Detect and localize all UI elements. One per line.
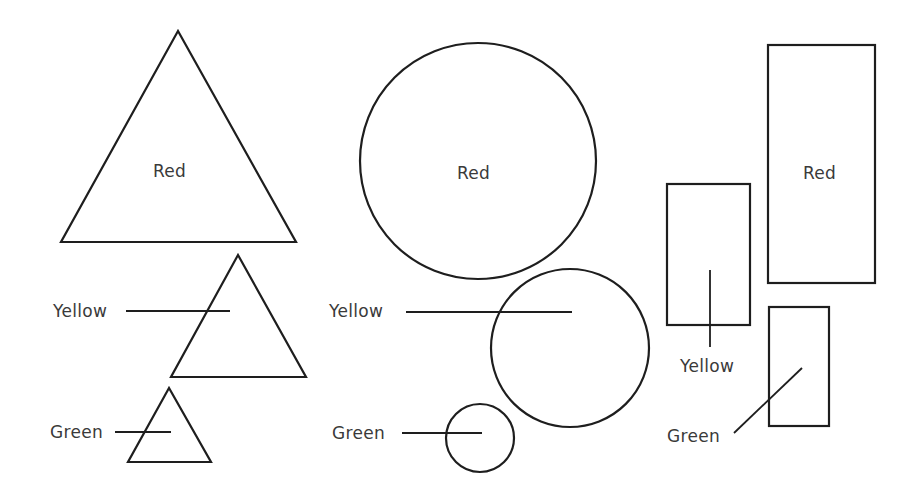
yellow-triangle	[171, 255, 306, 377]
red-triangle	[61, 31, 296, 242]
yellow-rectangle-label: Yellow	[680, 358, 734, 375]
green-triangle-label: Green	[50, 424, 103, 441]
green-circle-label: Green	[332, 425, 385, 442]
green-triangle	[128, 388, 211, 462]
green-rectangle-label: Green	[667, 428, 720, 445]
red-triangle-label: Red	[153, 163, 186, 180]
red-rectangle-label: Red	[803, 165, 836, 182]
yellow-circle	[491, 269, 649, 427]
yellow-triangle-label: Yellow	[53, 303, 107, 320]
red-circle	[360, 43, 596, 279]
red-circle-label: Red	[457, 165, 490, 182]
green-rectangle	[769, 307, 829, 426]
yellow-rectangle	[667, 184, 750, 325]
shape-color-diagram: Red Yellow Green Red Yellow Green Red Ye…	[0, 0, 919, 490]
yellow-circle-label: Yellow	[329, 303, 383, 320]
green-circle	[446, 404, 514, 472]
diagram-drawing	[0, 0, 919, 490]
